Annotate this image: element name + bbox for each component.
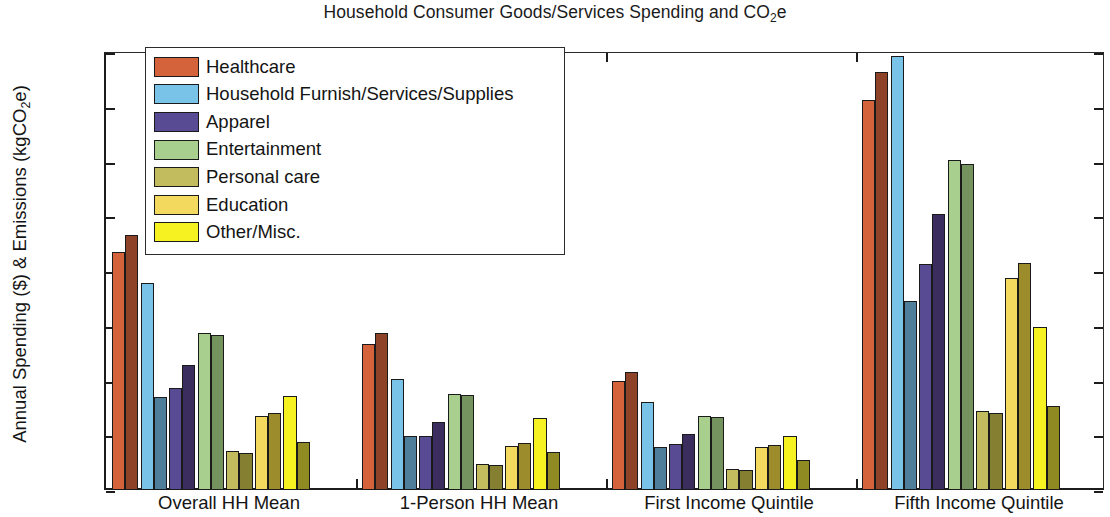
y-axis-label-main: Annual Spending ($) & Emissions (kgCO (9, 109, 30, 443)
chart-figure: Household Consumer Goods/Services Spendi… (0, 0, 1110, 517)
bar-other_misc-spending (533, 418, 546, 490)
y-axis-label-wrapper: Annual Spending ($) & Emissions (kgCO2e) (9, 29, 37, 499)
x-axis-category-label: First Income Quintile (644, 492, 814, 514)
bar-healthcare-emissions (875, 72, 888, 490)
bar-entertainment-spending (948, 160, 961, 490)
bar-apparel-spending (169, 388, 182, 490)
bar-apparel-spending (669, 444, 682, 490)
bar-apparel-spending (919, 264, 932, 490)
bar-healthcare-spending (612, 381, 625, 491)
chart-title: Household Consumer Goods/Services Spendi… (0, 2, 1110, 23)
legend-label: Healthcare (206, 58, 295, 77)
bar-education-emissions (518, 443, 531, 490)
legend-item: Entertainment (154, 136, 564, 164)
bar-personal_care-spending (226, 451, 239, 490)
bar-other_misc-spending (1033, 327, 1046, 490)
bar-household_furnish-spending (891, 56, 904, 490)
bar-household_furnish-spending (641, 402, 654, 490)
bar-entertainment-spending (698, 416, 711, 490)
bar-personal_care-spending (476, 464, 489, 490)
bar-healthcare-spending (862, 100, 875, 490)
bar-healthcare-spending (362, 344, 375, 490)
bar-education-emissions (768, 445, 781, 490)
bar-personal_care-emissions (489, 465, 502, 490)
legend-label: Education (206, 196, 288, 215)
bar-apparel-spending (419, 436, 432, 490)
bar-apparel-emissions (682, 434, 695, 490)
legend-swatch-education (154, 195, 199, 215)
bar-entertainment-spending (448, 394, 461, 490)
legend-item: Personal care (154, 163, 564, 191)
x-axis-category-label: Overall HH Mean (158, 492, 300, 514)
legend-label: Entertainment (206, 140, 321, 159)
bar-education-emissions (1018, 263, 1031, 490)
bar-household_furnish-emissions (654, 447, 667, 490)
bar-entertainment-spending (198, 333, 211, 490)
bar-apparel-emissions (432, 422, 445, 490)
legend-item: Education (154, 191, 564, 219)
bar-apparel-emissions (932, 214, 945, 490)
x-axis-category-label: 1-Person HH Mean (400, 492, 558, 514)
y-axis-label-tail: e) (9, 85, 30, 101)
legend-label: Household Furnish/Services/Supplies (206, 85, 513, 104)
legend-item: Apparel (154, 108, 564, 136)
bar-education-spending (1005, 278, 1018, 490)
legend-item: Household Furnish/Services/Supplies (154, 81, 564, 109)
bar-education-emissions (268, 413, 281, 490)
legend-swatch-healthcare (154, 57, 199, 77)
bar-other_misc-emissions (1047, 406, 1060, 490)
legend-item: Other/Misc. (154, 219, 564, 247)
x-axis-ticks: Overall HH Mean1-Person HH MeanFirst Inc… (104, 492, 1104, 517)
bar-healthcare-spending (112, 252, 125, 490)
legend-swatch-apparel (154, 112, 199, 132)
legend-swatch-household_furnish (154, 84, 199, 104)
legend-label: Other/Misc. (206, 223, 301, 242)
bar-other_misc-spending (783, 436, 796, 490)
bar-education-spending (505, 446, 518, 490)
bar-other_misc-emissions (547, 452, 560, 490)
bar-household_furnish-emissions (404, 436, 417, 490)
bar-healthcare-emissions (625, 372, 638, 490)
bar-entertainment-emissions (961, 164, 974, 490)
y-axis-label-subscript: 2 (19, 102, 33, 109)
bar-other_misc-spending (283, 396, 296, 490)
legend-swatch-entertainment (154, 140, 199, 160)
x-axis-category-label: Fifth Income Quintile (894, 492, 1064, 514)
bar-personal_care-emissions (989, 413, 1002, 490)
bar-other_misc-emissions (797, 460, 810, 490)
bar-household_furnish-emissions (904, 301, 917, 490)
chart-title-main: Household Consumer Goods/Services Spendi… (323, 2, 770, 22)
bar-healthcare-emissions (125, 235, 138, 490)
bar-household_furnish-emissions (154, 397, 167, 490)
bar-household_furnish-spending (391, 379, 404, 490)
bar-household_furnish-spending (141, 283, 154, 491)
legend-swatch-personal_care (154, 167, 199, 187)
bar-education-spending (755, 447, 768, 490)
chart-title-tail: e (777, 2, 787, 22)
legend-item: Healthcare (154, 53, 564, 81)
chart-legend: HealthcareHousehold Furnish/Services/Sup… (145, 47, 565, 255)
bar-personal_care-emissions (239, 453, 252, 490)
bar-entertainment-emissions (711, 417, 724, 490)
legend-label: Apparel (206, 113, 270, 132)
bar-education-spending (255, 416, 268, 490)
bar-entertainment-emissions (461, 395, 474, 490)
chart-title-subscript: 2 (770, 11, 777, 25)
bar-personal_care-spending (726, 469, 739, 490)
bar-entertainment-emissions (211, 335, 224, 490)
bar-apparel-emissions (182, 365, 195, 490)
bar-healthcare-emissions (375, 333, 388, 490)
bar-personal_care-emissions (739, 470, 752, 490)
legend-swatch-other_misc (154, 222, 199, 242)
bar-other_misc-emissions (297, 442, 310, 490)
y-axis-label: Annual Spending ($) & Emissions (kgCO2e) (9, 85, 30, 443)
bar-personal_care-spending (976, 411, 989, 490)
legend-label: Personal care (206, 168, 320, 187)
